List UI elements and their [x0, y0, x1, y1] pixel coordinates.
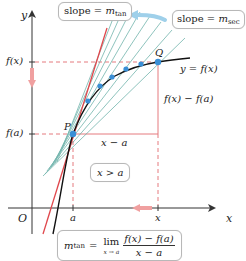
slope-tan-box: slope = mtan [58, 2, 132, 21]
condition-box: x > a [90, 163, 130, 182]
y-axis-label: y [21, 10, 27, 21]
slope-tan-prefix: slope = [64, 5, 105, 16]
slope-sec-prefix: slope = [177, 13, 218, 24]
fa-tick-label: f(a) [6, 128, 23, 138]
slope-sec-box: slope = msec [172, 10, 245, 29]
arrow-red-left [132, 204, 152, 212]
point-P-label: P [64, 122, 71, 132]
formula-sub: tan [73, 242, 85, 250]
lim-under: x → a [103, 248, 119, 255]
condition-text: x > a [97, 167, 123, 178]
fraction-numerator: f(x) − f(a) [123, 233, 174, 246]
run-label: x − a [101, 138, 127, 148]
slope-tan-sub: tan [115, 10, 127, 18]
arrow-red-down [28, 68, 36, 88]
lim-text: lim [103, 236, 119, 247]
slope-tan-m: m [105, 5, 114, 16]
formula-fraction: f(x) − f(a) x − a [123, 233, 174, 258]
rise-label: f(x) − f(a) [164, 94, 213, 104]
limit-formula-box: mtan = lim x → a f(x) − f(a) x − a [57, 230, 182, 261]
origin-label: O [18, 213, 27, 224]
slope-sec-m: m [218, 13, 227, 24]
x-axis-label: x [226, 213, 232, 224]
slope-sec-sub: sec [228, 18, 240, 26]
fx-tick-label: f(x) [6, 56, 23, 66]
x-tick-label: x [155, 213, 161, 223]
curve-label: y = f(x) [180, 64, 218, 74]
formula-lim: lim x → a [103, 236, 119, 255]
arrow-blue [128, 10, 165, 20]
tangent-line [43, 28, 107, 234]
formula-m: m [64, 240, 73, 251]
a-tick-label: a [70, 213, 76, 223]
formula-equals: = [89, 240, 97, 251]
fraction-denominator: x − a [136, 246, 162, 258]
point-Q [155, 59, 161, 65]
point-Q-label: Q [155, 48, 163, 58]
